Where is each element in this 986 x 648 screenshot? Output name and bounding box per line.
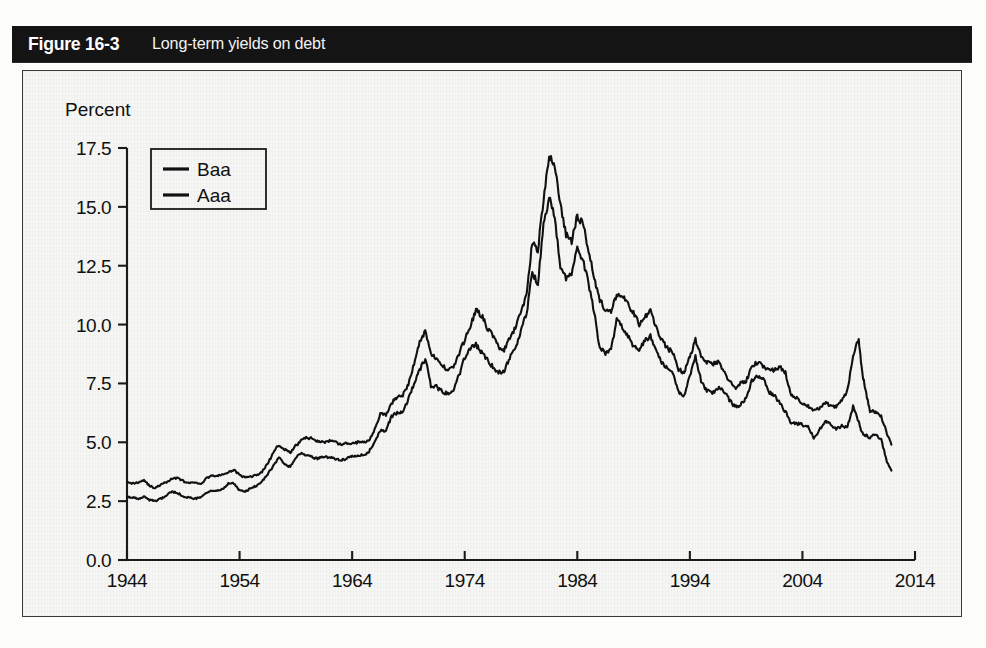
y-tick-label: 15.0 [76,197,111,218]
x-tick-label: 1944 [107,570,148,591]
figure-container: Figure 16-3 Long-term yields on debt Per… [0,0,986,648]
x-tick-label: 1994 [670,570,711,591]
line-chart: Percent 0.02.55.07.510.012.515.017.5 194… [23,71,961,616]
y-axis-ticks: 0.02.55.07.510.012.515.017.5 [76,138,127,571]
y-tick-label: 5.0 [86,432,111,453]
figure-number: Figure 16-3 [28,33,119,55]
chart-panel: Percent 0.02.55.07.510.012.515.017.5 194… [22,70,962,617]
chart-legend: Baa Aaa [151,149,266,209]
x-tick-label: 2004 [782,570,823,591]
y-tick-label: 7.5 [86,373,111,394]
x-tick-label: 2014 [895,570,936,591]
figure-caption: Long-term yields on debt [152,34,325,54]
figure-title-bar: Figure 16-3 Long-term yields on debt [12,26,972,62]
y-tick-label: 0.0 [86,550,111,571]
y-tick-label: 12.5 [76,256,111,277]
y-tick-label: 2.5 [86,491,111,512]
x-axis-ticks: 19441954196419741984199420042014 [107,551,936,591]
legend-label-aaa: Aaa [197,185,231,206]
y-tick-label: 17.5 [76,138,111,159]
x-tick-label: 1984 [557,570,598,591]
y-tick-label: 10.0 [76,315,111,336]
x-tick-label: 1954 [219,570,260,591]
legend-label-baa: Baa [197,159,231,180]
y-axis-title: Percent [65,99,131,120]
series-line-aaa [127,198,891,502]
x-tick-label: 1964 [332,570,373,591]
x-tick-label: 1974 [445,570,486,591]
